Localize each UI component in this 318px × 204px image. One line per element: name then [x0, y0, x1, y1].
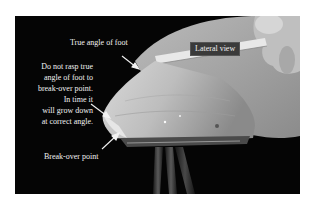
break-over-label: Break-over point	[44, 151, 98, 162]
caption-line: will grow down	[19, 105, 93, 116]
true-angle-label: True angle of foot	[70, 37, 128, 48]
caption-block: Do not rasp true angle of foot to break-…	[19, 61, 93, 127]
lateral-view-label: Lateral view	[190, 42, 240, 56]
hoof-photo: True angle of foot Lateral view Do not r…	[15, 16, 300, 194]
caption-line: Do not rasp true	[19, 61, 93, 72]
break-over-arrow	[102, 133, 119, 149]
caption-line: In time it	[19, 94, 93, 105]
caption-line: angle of foot to	[19, 72, 93, 83]
caption-line: at correct angle.	[19, 116, 93, 127]
caption-line: break-over point.	[19, 83, 93, 94]
